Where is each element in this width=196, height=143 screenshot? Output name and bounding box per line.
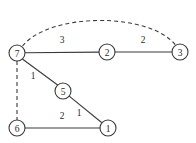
edge-weight-7-2: 3 [60,35,65,45]
edge-7-2 [25,52,99,53]
node-1-label: 1 [106,124,111,134]
node-5-label: 5 [61,87,66,97]
node-2-label: 2 [105,48,110,58]
edge-7-5 [23,59,58,85]
edge-weight-2-3: 2 [141,35,146,45]
edge-weight-5-1: 1 [77,108,82,118]
edge-7-3-dashed [23,20,177,46]
edge-5-1 [69,96,102,123]
edge-weight-6-1: 2 [60,111,65,121]
graph-diagram: 7 2 3 5 6 1 3 2 1 1 2 [0,0,196,143]
node-6-label: 6 [15,124,20,134]
node-7-label: 7 [15,49,20,59]
node-3-label: 3 [178,48,183,58]
edge-weight-7-5: 1 [31,71,36,81]
graph-canvas: 7 2 3 5 6 1 3 2 1 1 2 [0,0,196,143]
